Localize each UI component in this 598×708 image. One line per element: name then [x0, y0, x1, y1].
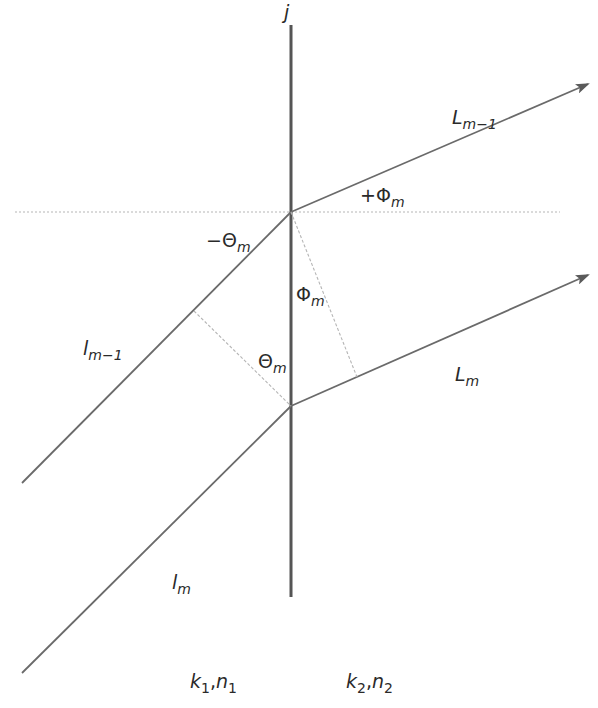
label-medium-2-n-sub: 2: [384, 680, 393, 696]
label-incident-lower-sub: m: [177, 581, 191, 597]
label-phi-m-sub: m: [311, 293, 325, 309]
label-refracted-lower-sub: m: [466, 373, 480, 389]
label-interface-j: j: [284, 3, 289, 22]
label-plus-phi-m-base: +Φ: [360, 184, 391, 206]
label-medium-1: k1,n1: [190, 672, 237, 691]
label-theta-m: Θm: [258, 352, 287, 371]
label-phi-m-base: Φ: [296, 283, 311, 305]
label-medium-1-k-sub: 1: [201, 680, 210, 696]
label-medium-2-k-sub: 2: [357, 680, 366, 696]
label-plus-phi-m-sub: m: [391, 194, 405, 210]
label-theta-m-sub: m: [273, 360, 287, 376]
refracted-ray-lower: [291, 275, 588, 406]
label-interface-j-base: j: [284, 1, 289, 23]
label-theta-m-base: Θ: [258, 350, 273, 372]
label-medium-2: k2,n2: [346, 672, 393, 691]
label-medium-2-n: n: [372, 670, 384, 692]
label-medium-1-k: k: [190, 670, 201, 692]
label-phi-m: Φm: [296, 285, 325, 304]
label-incident-lower: lm: [172, 573, 191, 592]
label-medium-2-k: k: [346, 670, 357, 692]
label-refracted-upper-base: L: [452, 106, 463, 128]
label-refracted-upper: Lm−1: [452, 108, 497, 127]
refracted-ray-upper: [291, 84, 588, 212]
incident-ray-lower: [22, 406, 291, 673]
label-minus-theta-m-base: −Θ: [206, 229, 237, 251]
label-refracted-upper-sub: m−1: [463, 116, 497, 132]
label-medium-1-n-sub: 1: [228, 680, 237, 696]
label-plus-phi-m: +Φm: [360, 186, 405, 205]
label-minus-theta-m: −Θm: [206, 231, 251, 250]
incident-ray-upper: [22, 212, 291, 483]
label-incident-upper: lm−1: [83, 339, 123, 358]
label-refracted-lower: Lm: [455, 365, 479, 384]
label-minus-theta-m-sub: m: [237, 239, 251, 255]
label-refracted-lower-base: L: [455, 363, 466, 385]
label-incident-upper-sub: m−1: [88, 347, 122, 363]
label-medium-1-n: n: [216, 670, 228, 692]
